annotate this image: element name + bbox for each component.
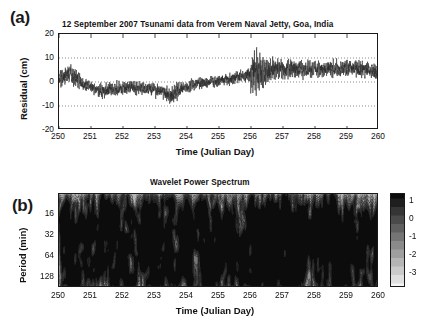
panel-b-x-tick: 255 <box>204 290 232 300</box>
panel-a-y-tick: 0 <box>30 76 54 86</box>
colorbar-gradient <box>391 194 405 287</box>
panel-a-x-tick: 259 <box>332 131 360 141</box>
panel-a-x-tick: 260 <box>364 131 392 141</box>
panel-b-x-tick: 254 <box>172 290 200 300</box>
panel-b-y-tick: 16 <box>30 208 54 218</box>
panel-a-x-tick: 258 <box>300 131 328 141</box>
panel-b-x-tick: 257 <box>268 290 296 300</box>
panel-b-x-tick: 256 <box>236 290 264 300</box>
colorbar <box>390 193 405 287</box>
panel-b-y-tick: 128 <box>30 271 54 281</box>
residual-timeseries-svg <box>59 34 378 129</box>
panel-b-y-tick: 32 <box>30 229 54 239</box>
panel-a-x-tick: 255 <box>204 131 232 141</box>
wavelet-spectrum-canvas <box>59 194 378 287</box>
panel-b-x-tick: 253 <box>140 290 168 300</box>
panel-a-y-tick: 10 <box>30 52 54 62</box>
panel-a-x-tick: 252 <box>108 131 136 141</box>
wavelet-power-spectrum-plot <box>58 193 378 287</box>
panel-a-x-tick: 254 <box>172 131 200 141</box>
panel-a-x-tick: 251 <box>76 131 104 141</box>
panel-a-y-tick: 20 <box>30 28 54 38</box>
panel-b-x-tick: 252 <box>108 290 136 300</box>
panel-a-x-tick: 256 <box>236 131 264 141</box>
colorbar-tick: 1 <box>409 195 414 205</box>
panel-a-title: 12 September 2007 Tsunami data from Vere… <box>62 20 333 29</box>
panel-a-x-tick: 257 <box>268 131 296 141</box>
panel-b-x-tick: 251 <box>76 290 104 300</box>
panel-b-x-tick: 250 <box>44 290 72 300</box>
panel-b-title: Wavelet Power Spectrum <box>150 178 250 187</box>
residual-timeseries-plot <box>58 33 378 129</box>
panel-a-x-tick: 250 <box>44 131 72 141</box>
panel-a-label: (a) <box>10 8 30 28</box>
panel-a-y-tick: -10 <box>30 100 54 110</box>
panel-b-x-tick: 258 <box>300 290 328 300</box>
panel-b-x-tick: 259 <box>332 290 360 300</box>
panel-b-y-tick: 64 <box>30 250 54 260</box>
panel-a-y-axis-label: Residual (cm) <box>18 58 29 120</box>
figure-container: (a) 12 September 2007 Tsunami data from … <box>0 0 430 335</box>
panel-b-y-axis-label: Period (min) <box>17 228 28 283</box>
colorbar-tick: -3 <box>409 267 416 277</box>
colorbar-tick: -1 <box>409 231 416 241</box>
colorbar-tick: -2 <box>409 249 416 259</box>
panel-a-x-axis-label: Time (Julian Day) <box>0 146 430 157</box>
panel-b-x-tick: 260 <box>364 290 392 300</box>
panel-b-x-axis-label: Time (Julian Day) <box>0 305 430 316</box>
panel-a-x-tick: 253 <box>140 131 168 141</box>
colorbar-tick: 0 <box>409 213 414 223</box>
